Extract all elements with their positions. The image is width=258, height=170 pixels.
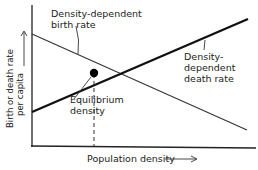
death-label-leader <box>204 40 205 50</box>
death-rate-label-line1: Density- <box>184 51 223 62</box>
y-axis-label: Birth or death rate per capita <box>5 49 25 128</box>
equilibrium-label-line1: Equilibrium <box>70 94 124 105</box>
x-axis-label: Population density <box>87 153 175 164</box>
y-axis-arrow-icon <box>21 31 27 66</box>
death-rate-label-line3: death rate <box>184 73 234 84</box>
y-axis-label-line2: per capita <box>15 73 25 116</box>
birth-rate-label-line1: Density-dependent <box>51 8 142 19</box>
birth-label-leader <box>76 26 79 54</box>
x-axis <box>31 146 256 148</box>
y-axis-label-line1: Birth or death rate <box>5 49 15 128</box>
density-dependence-diagram: Density-dependent birth rate Density- de… <box>0 0 258 170</box>
equilibrium-label-line2: density <box>70 105 105 116</box>
equilibrium-point <box>90 69 98 77</box>
birth-rate-label-line2: birth rate <box>51 19 96 30</box>
death-rate-label-line2: dependent <box>184 62 236 73</box>
